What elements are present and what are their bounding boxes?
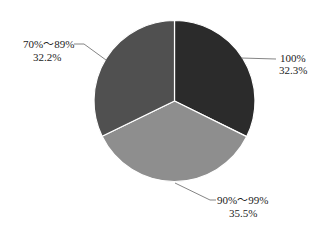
label-70-89-name: 70%～89% xyxy=(23,38,74,50)
leader-line-70-89 xyxy=(74,44,106,60)
label-70-89-value: 32.2% xyxy=(33,51,61,63)
leader-line-90-99 xyxy=(175,183,216,200)
label-90-99-name: 90%～99% xyxy=(217,194,268,206)
label-100-name: 100% xyxy=(280,52,306,64)
label-100-value: 32.3% xyxy=(279,64,307,76)
leader-line-100 xyxy=(241,58,276,59)
pie-slices xyxy=(94,21,255,182)
pie-chart: 70%～89% 32.2% 100% 32.3% 90%～99% 35.5% xyxy=(0,0,324,229)
label-90-99-value: 35.5% xyxy=(229,207,257,219)
